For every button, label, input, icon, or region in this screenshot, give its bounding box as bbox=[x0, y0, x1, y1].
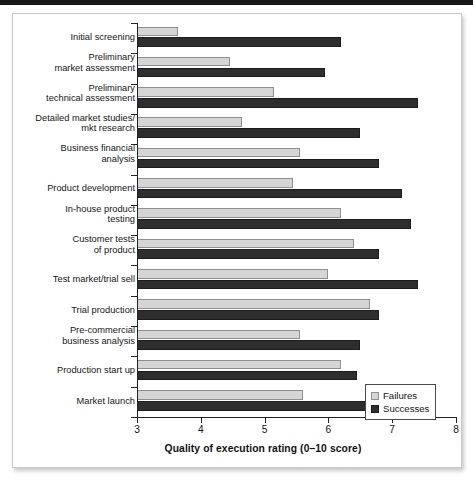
category-label: Business financial analysis bbox=[17, 143, 135, 164]
y-axis-tick bbox=[131, 387, 137, 388]
category-label: Test market/trial sell bbox=[17, 274, 135, 285]
bar-group-row: Test market/trial sell bbox=[13, 265, 461, 295]
x-axis-tick bbox=[456, 417, 457, 423]
bar-group-row: Production start up bbox=[13, 356, 461, 386]
bar-group-row: Preliminary technical assessment bbox=[13, 84, 461, 114]
bar-group-row: Customer tests of product bbox=[13, 235, 461, 265]
bar-successes bbox=[137, 128, 360, 138]
bar-successes bbox=[137, 159, 379, 169]
x-axis-tick bbox=[328, 417, 329, 423]
bar-successes bbox=[137, 98, 418, 108]
bar-successes bbox=[137, 371, 357, 381]
bar-failures bbox=[137, 148, 300, 158]
bar-failures bbox=[137, 239, 354, 249]
bar-successes bbox=[137, 37, 341, 47]
bar-successes bbox=[137, 68, 325, 78]
x-axis-tick bbox=[137, 417, 138, 423]
category-label: Market launch bbox=[17, 396, 135, 407]
y-axis-tick bbox=[131, 205, 137, 206]
y-axis-line bbox=[137, 23, 138, 417]
x-axis-tick-label: 3 bbox=[125, 424, 149, 435]
legend-item-successes: Successes bbox=[371, 402, 429, 415]
y-axis-tick bbox=[131, 235, 137, 236]
bar-successes bbox=[137, 280, 418, 290]
bar-rows-container: Initial screeningPreliminary market asse… bbox=[13, 23, 461, 417]
chart-legend: Failures Successes bbox=[365, 384, 436, 420]
bar-pair bbox=[137, 326, 461, 356]
bar-group-row: In-house product testing bbox=[13, 205, 461, 235]
bar-failures bbox=[137, 360, 341, 370]
legend-label-successes: Successes bbox=[383, 403, 429, 414]
y-axis-tick bbox=[131, 114, 137, 115]
bar-pair bbox=[137, 84, 461, 114]
y-axis-tick bbox=[131, 23, 137, 24]
bar-group-row: Business financial analysis bbox=[13, 144, 461, 174]
bar-pair bbox=[137, 205, 461, 235]
x-axis-tick-label: 8 bbox=[444, 424, 468, 435]
bar-successes bbox=[137, 310, 379, 320]
y-axis-tick bbox=[131, 265, 137, 266]
y-axis-tick bbox=[131, 84, 137, 85]
bar-pair bbox=[137, 23, 461, 53]
bar-pair bbox=[137, 356, 461, 386]
bar-failures bbox=[137, 330, 300, 340]
y-axis-tick bbox=[131, 144, 137, 145]
figure-page: Initial screeningPreliminary market asse… bbox=[0, 0, 473, 482]
category-label: Preliminary market assessment bbox=[17, 52, 135, 73]
bar-failures bbox=[137, 299, 370, 309]
legend-item-failures: Failures bbox=[371, 389, 429, 402]
x-axis-tick-label: 6 bbox=[316, 424, 340, 435]
x-axis-tick-label: 5 bbox=[253, 424, 277, 435]
category-label: Detailed market studies/ mkt research bbox=[17, 113, 135, 134]
bar-group-row: Product development bbox=[13, 174, 461, 204]
legend-swatch-successes-icon bbox=[371, 405, 379, 413]
x-axis-tick bbox=[201, 417, 202, 423]
bar-failures bbox=[137, 390, 303, 400]
bar-pair bbox=[137, 53, 461, 83]
x-axis-title: Quality of execution rating (0–10 score) bbox=[13, 443, 461, 454]
bar-group-row: Initial screening bbox=[13, 23, 461, 53]
bar-pair bbox=[137, 235, 461, 265]
y-axis-tick bbox=[131, 53, 137, 54]
y-axis-tick bbox=[131, 175, 137, 176]
bar-pair bbox=[137, 174, 461, 204]
legend-swatch-failures-icon bbox=[371, 392, 379, 400]
bar-failures bbox=[137, 117, 242, 127]
bar-failures bbox=[137, 178, 293, 188]
bar-successes bbox=[137, 340, 360, 350]
bar-failures bbox=[137, 269, 328, 279]
bar-failures bbox=[137, 57, 230, 67]
bar-pair bbox=[137, 144, 461, 174]
y-axis-tick bbox=[131, 326, 137, 327]
x-axis-tick-label: 7 bbox=[380, 424, 404, 435]
bar-group-row: Pre-commercial business analysis bbox=[13, 326, 461, 356]
bar-successes bbox=[137, 401, 373, 411]
category-label: Pre-commercial business analysis bbox=[17, 325, 135, 346]
category-label: Preliminary technical assessment bbox=[17, 83, 135, 104]
bar-successes bbox=[137, 219, 411, 229]
y-axis-tick bbox=[131, 296, 137, 297]
bar-successes bbox=[137, 189, 402, 199]
legend-label-failures: Failures bbox=[383, 390, 417, 401]
category-label: Initial screening bbox=[17, 32, 135, 43]
bar-failures bbox=[137, 208, 341, 218]
bar-group-row: Trial production bbox=[13, 296, 461, 326]
bar-failures bbox=[137, 87, 274, 97]
category-label: Customer tests of product bbox=[17, 234, 135, 255]
category-label: In-house product testing bbox=[17, 204, 135, 225]
x-axis-tick-label: 4 bbox=[189, 424, 213, 435]
bar-group-row: Detailed market studies/ mkt research bbox=[13, 114, 461, 144]
y-axis-tick bbox=[131, 417, 137, 418]
bar-successes bbox=[137, 249, 379, 259]
bar-pair bbox=[137, 265, 461, 295]
bar-pair bbox=[137, 296, 461, 326]
x-axis-tick bbox=[265, 417, 266, 423]
page-top-band bbox=[0, 0, 473, 5]
bar-pair bbox=[137, 114, 461, 144]
category-label: Production start up bbox=[17, 365, 135, 376]
y-axis-tick bbox=[131, 356, 137, 357]
bar-group-row: Preliminary market assessment bbox=[13, 53, 461, 83]
category-label: Product development bbox=[17, 183, 135, 194]
chart-figure-frame: Initial screeningPreliminary market asse… bbox=[12, 13, 462, 468]
category-label: Trial production bbox=[17, 305, 135, 316]
